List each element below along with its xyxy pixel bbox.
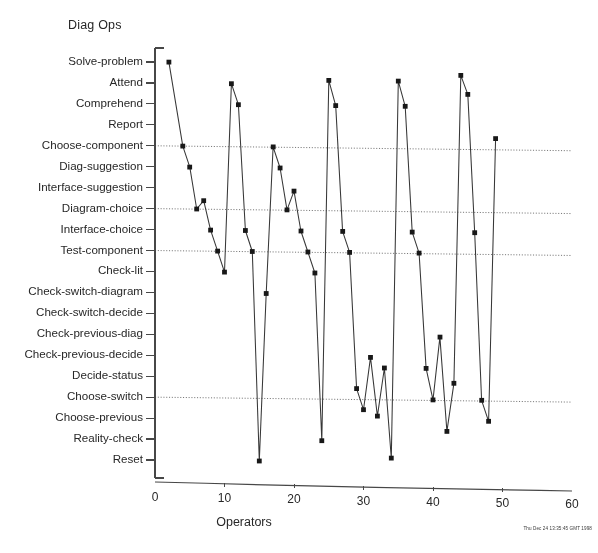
data-point-marker: [167, 60, 172, 65]
x-tick-label: 50: [496, 496, 509, 510]
data-point-marker: [458, 73, 463, 78]
data-point-marker: [438, 335, 443, 340]
x-tick-label: 20: [287, 492, 300, 506]
data-point-marker: [208, 228, 213, 233]
data-point-marker: [229, 81, 234, 86]
gridlines: [155, 146, 572, 402]
gridline: [155, 209, 572, 214]
gridline: [155, 397, 572, 402]
data-point-marker: [236, 102, 241, 107]
data-point-marker: [257, 459, 262, 464]
x-tick-label: 40: [426, 495, 439, 509]
data-point-marker: [472, 230, 477, 235]
data-point-marker: [180, 144, 185, 149]
data-point-marker: [194, 207, 199, 212]
data-point-marker: [424, 366, 429, 371]
x-tick-label: 10: [218, 491, 231, 505]
data-point-marker: [493, 136, 498, 141]
data-point-marker: [271, 145, 276, 150]
data-point-marker: [417, 251, 422, 256]
data-point-marker: [403, 104, 408, 109]
data-point-marker: [222, 270, 227, 275]
data-point-marker: [361, 407, 366, 412]
data-point-marker: [382, 366, 387, 371]
data-point-marker: [299, 229, 304, 234]
x-axis-title: Operators: [0, 515, 598, 529]
data-point-marker: [445, 429, 450, 434]
data-point-marker: [465, 92, 470, 97]
chart-figure: Diag Ops Solve-problemAttendComprehendRe…: [0, 0, 598, 553]
gridline: [155, 146, 572, 151]
x-tick-label: 0: [152, 490, 159, 504]
data-point-marker: [354, 386, 359, 391]
data-point-marker: [389, 456, 394, 461]
x-tick-label: 60: [565, 497, 578, 511]
data-point-marker: [292, 189, 297, 194]
timestamp: Thu Dec 24 13:35:45 GMT 1998: [523, 525, 592, 531]
data-point-marker: [319, 438, 324, 443]
data-point-marker: [333, 103, 338, 108]
data-point-marker: [243, 228, 248, 233]
data-point-marker: [326, 78, 331, 83]
data-point-marker: [375, 414, 380, 419]
data-series-markers: [167, 60, 499, 464]
data-point-marker: [306, 250, 311, 255]
plot-area: [0, 0, 598, 553]
x-axis-title-text: Operators: [216, 515, 272, 529]
data-point-marker: [285, 208, 290, 213]
data-point-marker: [486, 419, 491, 424]
x-tick-label: 30: [357, 494, 370, 508]
data-point-marker: [368, 355, 373, 360]
data-series-line: [169, 62, 496, 461]
data-point-marker: [201, 198, 206, 203]
data-point-marker: [187, 165, 192, 170]
data-point-marker: [264, 291, 269, 296]
data-point-marker: [396, 79, 401, 84]
data-point-marker: [250, 249, 255, 254]
data-point-marker: [347, 250, 352, 255]
data-point-marker: [452, 381, 457, 386]
data-point-marker: [431, 398, 436, 403]
data-point-marker: [215, 249, 220, 254]
data-point-marker: [410, 230, 415, 235]
data-point-marker: [340, 229, 345, 234]
y-axis: [146, 48, 164, 478]
data-point-marker: [278, 166, 283, 171]
data-point-marker: [313, 271, 318, 276]
data-point-marker: [479, 398, 484, 403]
